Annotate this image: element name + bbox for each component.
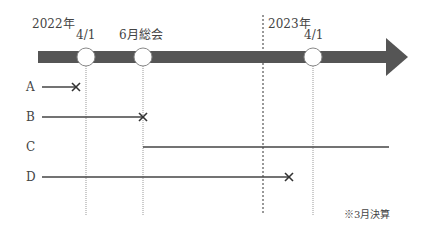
marker-label-june-meeting: 6月総会	[119, 28, 163, 42]
marker-label-2023-04-01: 4/1	[304, 28, 323, 42]
fiscal-year-note: ※3月決算	[344, 208, 390, 222]
row-label-a: A	[26, 80, 35, 94]
row-label-b: B	[26, 110, 35, 124]
timeline-arrowhead-icon	[386, 38, 408, 76]
marker-2023-04-01	[304, 48, 322, 66]
row-label-d: D	[26, 170, 36, 184]
year-start-label: 2022年	[32, 17, 75, 31]
timeline-diagram	[0, 0, 429, 231]
row-label-c: C	[26, 140, 35, 154]
marker-2022-04-01	[77, 48, 95, 66]
marker-june-meeting	[134, 48, 152, 66]
marker-label-2022-04-01: 4/1	[76, 28, 95, 42]
